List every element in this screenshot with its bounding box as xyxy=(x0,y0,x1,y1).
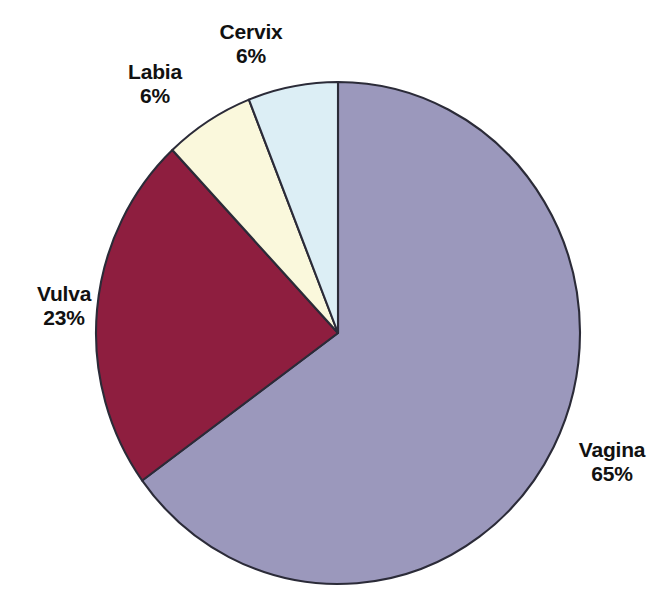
pie-slice-group xyxy=(96,82,580,584)
pie-label-labia-name: Labia xyxy=(100,60,210,84)
pie-label-vagina-value: 65% xyxy=(556,462,668,486)
pie-label-labia-value: 6% xyxy=(100,84,210,108)
pie-label-cervix-value: 6% xyxy=(193,44,309,68)
pie-label-vulva: Vulva 23% xyxy=(6,282,122,329)
pie-label-vulva-value: 23% xyxy=(6,306,122,330)
pie-label-vagina: Vagina 65% xyxy=(556,438,668,485)
pie-chart-figure: Cervix 6% Labia 6% Vulva 23% Vagina 65% xyxy=(0,0,671,607)
pie-label-vulva-name: Vulva xyxy=(6,282,122,306)
pie-label-labia: Labia 6% xyxy=(100,60,210,107)
pie-label-cervix: Cervix 6% xyxy=(193,20,309,67)
pie-label-vagina-name: Vagina xyxy=(556,438,668,462)
pie-label-cervix-name: Cervix xyxy=(193,20,309,44)
